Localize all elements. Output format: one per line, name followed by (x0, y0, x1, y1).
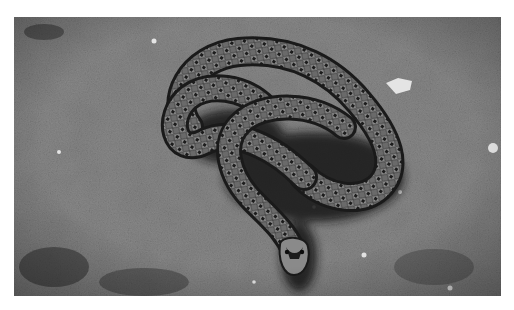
photo-canvas (14, 17, 501, 296)
snake-photograph: A patterned snake coiled in loops on rou… (14, 17, 501, 296)
